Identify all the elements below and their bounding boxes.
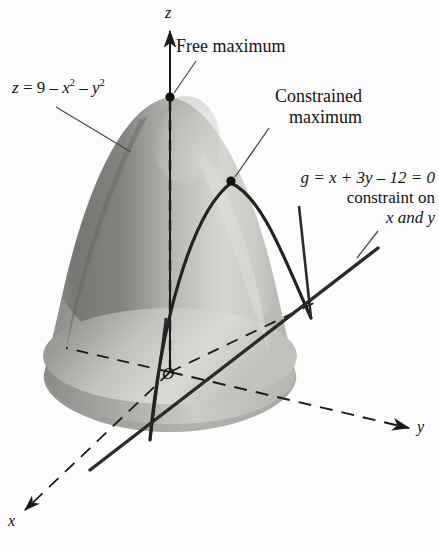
free-maximum-point: [165, 92, 174, 101]
constraint-equation-label: g = x + 3y – 12 = 0: [247, 168, 435, 188]
constraint-annotation: g = x + 3y – 12 = 0 constraint on x and …: [247, 168, 435, 228]
constrained-maximum-point: [226, 176, 235, 185]
constrained-maximum-label: Constrained maximum: [216, 86, 362, 128]
z-axis-label: z: [165, 4, 171, 23]
y-axis-label: y: [417, 418, 424, 437]
surface-equation-label: z = 9 – x2 – y2: [12, 77, 105, 98]
lagrange-multiplier-figure: z = 9 – x2 – y2 Free maximum Constrained…: [0, 0, 439, 553]
constrained-maximum-line-2: maximum: [216, 107, 362, 128]
x-axis-label: x: [8, 512, 15, 531]
origin-label: O: [162, 364, 174, 384]
surface-equation-text: z = 9 – x2 – y2: [12, 78, 105, 97]
constrained-maximum-line-1: Constrained: [216, 86, 362, 107]
leader-free-maximum: [174, 61, 196, 93]
constraint-description-line-1: constraint on: [247, 188, 435, 208]
constraint-description-line-2: x and y: [247, 208, 435, 228]
leader-surface-equation: [56, 107, 131, 152]
free-maximum-label: Free maximum: [176, 36, 285, 57]
